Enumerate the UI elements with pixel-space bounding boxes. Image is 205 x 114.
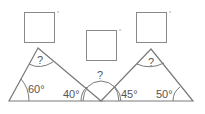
box-left-unit: ° bbox=[57, 10, 59, 16]
answer-box-left[interactable] bbox=[25, 13, 55, 43]
left-base-left-angle: 60° bbox=[28, 83, 45, 95]
right-base-right-arc bbox=[173, 87, 180, 101]
right-apex-label: ? bbox=[148, 56, 154, 68]
right-base-right-angle: 50° bbox=[156, 88, 173, 100]
answer-box-middle[interactable] bbox=[87, 31, 117, 61]
right-base-left-angle: 45° bbox=[121, 88, 138, 100]
box-right-unit: ° bbox=[169, 10, 171, 16]
left-apex-label: ? bbox=[37, 54, 43, 66]
box-middle-unit: ° bbox=[119, 28, 121, 34]
middle-angle-label: ? bbox=[97, 69, 103, 81]
left-base-right-angle: 40° bbox=[63, 88, 80, 100]
answer-box-right[interactable] bbox=[137, 13, 167, 43]
angle-diagram: ° ° ° ? 60° 40° ? ? 45° 50° bbox=[0, 0, 205, 114]
